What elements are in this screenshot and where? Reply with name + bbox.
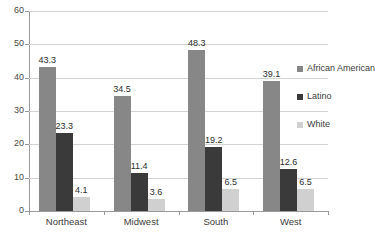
bar-northeast-white[interactable]: 4.1	[73, 197, 90, 211]
bar-west-african-american[interactable]: 39.1	[263, 81, 280, 211]
bar-northeast-african-american[interactable]: 43.3	[39, 67, 56, 211]
bar-group-northeast: 43.323.34.1	[39, 11, 90, 211]
bar-south-white[interactable]: 6.5	[222, 189, 239, 211]
bar-value-label: 3.6	[150, 188, 163, 197]
bar-west-white[interactable]: 6.5	[297, 189, 314, 211]
y-axis-tick	[25, 178, 29, 179]
bar-value-label: 19.2	[205, 136, 223, 145]
bar-west-latino[interactable]: 12.6	[280, 169, 297, 211]
bar-midwest-white[interactable]: 3.6	[148, 199, 165, 211]
x-axis-label-northeast: Northeast	[29, 216, 104, 227]
bar-value-label: 4.1	[75, 186, 88, 195]
bar-northeast-latino[interactable]: 23.3	[56, 133, 73, 211]
y-axis-tick-label: 60	[4, 6, 24, 15]
legend-item-latino[interactable]: Latino	[297, 92, 332, 101]
y-axis-labels: 0102030405060	[0, 0, 24, 243]
y-axis-tick-label: 20	[4, 139, 24, 148]
bar-group-west: 39.112.66.5	[263, 11, 314, 211]
y-axis-tick-label: 50	[4, 39, 24, 48]
y-axis-tick-label: 30	[4, 106, 24, 115]
x-axis-label-south: South	[179, 216, 254, 227]
bar-group-south: 48.319.26.5	[188, 11, 239, 211]
plot-area: 43.323.34.134.511.43.648.319.26.539.112.…	[29, 11, 328, 211]
legend-item-white[interactable]: White	[297, 120, 330, 129]
bar-value-label: 12.6	[280, 158, 298, 167]
x-axis-tick	[179, 211, 180, 215]
y-axis-tick	[25, 78, 29, 79]
y-axis-tick	[25, 111, 29, 112]
bar-value-label: 6.5	[225, 178, 238, 187]
bar-value-label: 6.5	[299, 178, 312, 187]
legend-item-african-american[interactable]: African American	[297, 64, 375, 73]
y-axis-tick	[25, 44, 29, 45]
legend-label: African American	[307, 64, 375, 73]
y-axis-tick-label: 40	[4, 73, 24, 82]
x-axis-labels: NortheastMidwestSouthWest	[29, 216, 328, 236]
legend-label: White	[307, 120, 330, 129]
legend-swatch-icon	[297, 122, 303, 128]
x-axis-label-midwest: Midwest	[104, 216, 179, 227]
y-axis-tick-label: 0	[4, 206, 24, 215]
legend-swatch-icon	[297, 66, 303, 72]
x-axis-tick	[253, 211, 254, 215]
bar-value-label: 34.5	[113, 85, 131, 94]
x-axis-tick	[328, 211, 329, 215]
x-axis-label-west: West	[253, 216, 328, 227]
y-axis-tick	[25, 144, 29, 145]
legend-swatch-icon	[297, 94, 303, 100]
bar-midwest-latino[interactable]: 11.4	[131, 173, 148, 211]
bar-value-label: 11.4	[131, 162, 148, 171]
x-axis-tick	[29, 211, 30, 215]
bar-value-label: 48.3	[188, 39, 206, 48]
y-axis-tick	[25, 11, 29, 12]
bar-value-label: 23.3	[56, 122, 74, 131]
bar-value-label: 43.3	[39, 56, 57, 65]
legend-label: Latino	[307, 92, 332, 101]
bar-south-latino[interactable]: 19.2	[205, 147, 222, 211]
bar-group-midwest: 34.511.43.6	[114, 11, 165, 211]
y-axis-tick-label: 10	[4, 173, 24, 182]
bar-south-african-american[interactable]: 48.3	[188, 50, 205, 211]
bar-midwest-african-american[interactable]: 34.5	[114, 96, 131, 211]
bar-value-label: 39.1	[263, 70, 281, 79]
x-axis-tick	[104, 211, 105, 215]
